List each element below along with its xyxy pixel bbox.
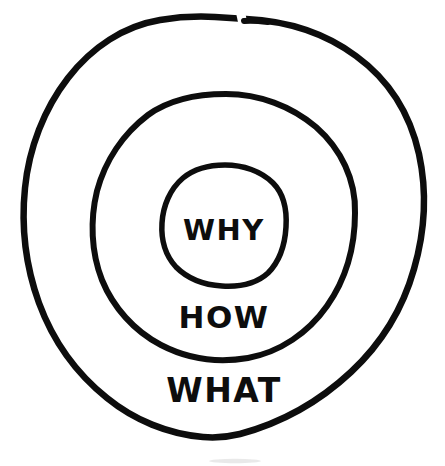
label-how: HOW (179, 299, 270, 335)
golden-circle-diagram: WHY HOW WHAT (0, 0, 445, 466)
label-what: WHAT (166, 371, 282, 410)
scan-smudge (209, 459, 261, 463)
outer-circle-pen-restart (244, 21, 268, 22)
golden-circle-svg: WHY HOW WHAT (0, 0, 445, 466)
label-why: WHY (183, 213, 265, 247)
